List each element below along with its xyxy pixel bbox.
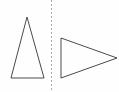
figure-canvas <box>0 0 119 92</box>
geometry-figure <box>0 0 119 92</box>
